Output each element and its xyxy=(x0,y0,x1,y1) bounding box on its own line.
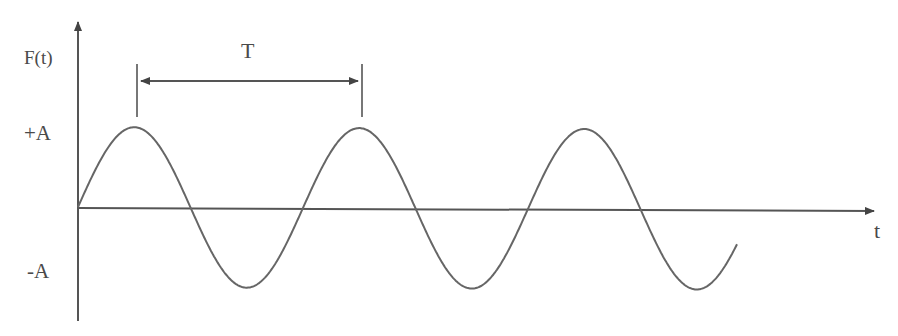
negative-amplitude-label: -A xyxy=(27,259,49,284)
x-axis-label: t xyxy=(874,218,880,244)
positive-amplitude-label: +A xyxy=(24,121,51,146)
y-axis-label: F(t) xyxy=(24,47,53,69)
sine-wave-diagram xyxy=(0,0,898,336)
x-axis xyxy=(78,208,874,211)
period-label: T xyxy=(241,38,254,64)
